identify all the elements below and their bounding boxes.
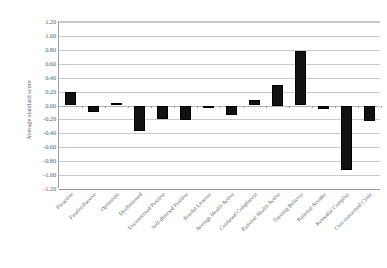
- bar: [341, 106, 352, 170]
- x-axis-tick-mark: [105, 106, 106, 108]
- bar: [295, 51, 306, 105]
- bar: [203, 106, 214, 108]
- y-axis-tick-labels: 1.201.000.800.600.400.200.00-0.20-0.40-0…: [28, 21, 56, 188]
- bar: [111, 103, 122, 106]
- y-axis-tick-label: -0.80: [28, 157, 56, 164]
- x-axis-category-labels: ProactiveFatalist/PassiveOptimisticDisil…: [58, 188, 380, 268]
- bar-chart: Average standard score 1.201.000.800.600…: [0, 0, 387, 268]
- y-axis-tick-label: -0.20: [28, 115, 56, 122]
- y-axis-tick-label: 1.00: [28, 31, 56, 38]
- y-axis-tick-label: 0.00: [28, 101, 56, 108]
- bar: [249, 100, 260, 106]
- bar: [65, 92, 76, 106]
- bar: [88, 106, 99, 112]
- x-axis-tick-mark: [128, 106, 129, 108]
- y-axis-tick-label: 0.20: [28, 87, 56, 94]
- bars-layer: [59, 22, 380, 188]
- bar: [157, 106, 168, 119]
- x-axis-tick-mark: [289, 106, 290, 108]
- bar: [226, 106, 237, 116]
- y-axis-tick-label: 0.40: [28, 73, 56, 80]
- plot-area: [58, 21, 380, 188]
- x-axis-tick-mark: [174, 106, 175, 108]
- bar: [180, 106, 191, 121]
- x-axis-tick-mark: [358, 106, 359, 108]
- x-axis-tick-mark: [335, 106, 336, 108]
- x-axis-tick-mark: [220, 106, 221, 108]
- bar: [134, 106, 145, 132]
- x-axis-tick-mark: [266, 106, 267, 108]
- x-axis-tick-mark: [381, 106, 382, 108]
- y-axis-tick-label: -1.20: [28, 185, 56, 192]
- x-axis-tick-mark: [312, 106, 313, 108]
- bar: [318, 106, 329, 109]
- x-axis-tick-mark: [82, 106, 83, 108]
- y-axis-tick-label: 1.20: [28, 18, 56, 25]
- x-axis-tick-mark: [197, 106, 198, 108]
- x-axis-tick-mark: [243, 106, 244, 108]
- y-axis-tick-label: -1.00: [28, 171, 56, 178]
- y-axis-tick-label: -0.60: [28, 143, 56, 150]
- y-axis-tick-label: -0.40: [28, 129, 56, 136]
- x-axis-tick-mark: [151, 106, 152, 108]
- bar: [272, 85, 283, 106]
- y-axis-tick-label: 0.80: [28, 45, 56, 52]
- y-axis-tick-label: 0.60: [28, 59, 56, 66]
- bar: [364, 106, 375, 121]
